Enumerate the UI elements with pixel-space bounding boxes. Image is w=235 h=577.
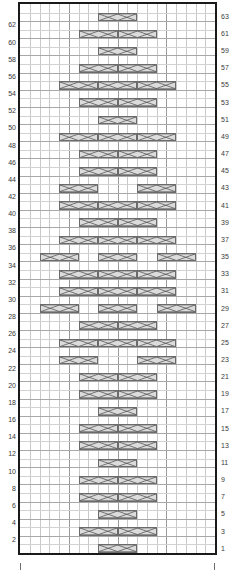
row-label-left-20: 20 bbox=[8, 382, 16, 389]
cable-cross-symbol bbox=[118, 373, 157, 382]
row-label-left-10: 10 bbox=[8, 468, 16, 475]
row-label-left-60: 60 bbox=[8, 39, 16, 46]
cable-cross-symbol bbox=[137, 184, 176, 193]
edge-tick-right bbox=[214, 563, 215, 570]
grid-line-horizontal bbox=[20, 279, 215, 280]
grid-line-horizontal bbox=[20, 450, 215, 451]
row-label-right-11: 11 bbox=[221, 459, 228, 466]
row-label-right-43: 43 bbox=[221, 184, 229, 191]
row-label-right-9: 9 bbox=[221, 476, 225, 483]
grid-line-horizontal bbox=[20, 124, 215, 125]
row-label-right-63: 63 bbox=[221, 13, 229, 20]
row-label-left-8: 8 bbox=[12, 485, 16, 492]
grid-line-horizontal bbox=[20, 519, 215, 520]
row-label-right-49: 49 bbox=[221, 133, 229, 140]
grid-line-horizontal bbox=[20, 210, 215, 211]
cable-cross-symbol bbox=[79, 441, 118, 450]
cable-cross-symbol bbox=[118, 30, 157, 39]
chart-grid-frame bbox=[18, 2, 217, 555]
grid-line-horizontal bbox=[20, 184, 215, 185]
row-label-left-46: 46 bbox=[8, 159, 16, 166]
grid-line-horizontal bbox=[20, 73, 215, 74]
row-label-right-51: 51 bbox=[221, 116, 229, 123]
row-label-right-21: 21 bbox=[221, 373, 229, 380]
row-label-right-3: 3 bbox=[221, 528, 225, 535]
cable-cross-symbol bbox=[137, 236, 176, 245]
row-label-right-59: 59 bbox=[221, 47, 229, 54]
row-label-right-31: 31 bbox=[221, 287, 229, 294]
cable-cross-symbol bbox=[118, 390, 157, 399]
cable-cross-symbol bbox=[79, 390, 118, 399]
cable-cross-symbol bbox=[137, 270, 176, 279]
row-label-right-53: 53 bbox=[221, 99, 229, 106]
cable-cross-symbol bbox=[98, 236, 137, 245]
cable-cross-symbol bbox=[40, 253, 79, 262]
grid-line-horizontal bbox=[20, 347, 215, 348]
row-label-left-62: 62 bbox=[8, 21, 16, 28]
row-label-left-40: 40 bbox=[8, 210, 16, 217]
cable-cross-symbol bbox=[98, 544, 137, 553]
cable-cross-symbol bbox=[59, 133, 98, 142]
row-label-right-25: 25 bbox=[221, 339, 229, 346]
grid-line-horizontal bbox=[20, 364, 215, 365]
row-label-right-23: 23 bbox=[221, 356, 229, 363]
grid-line-horizontal bbox=[20, 107, 215, 108]
cable-cross-symbol bbox=[118, 167, 157, 176]
grid-line-horizontal bbox=[20, 502, 215, 503]
cable-cross-symbol bbox=[59, 356, 98, 365]
row-label-left-48: 48 bbox=[8, 142, 16, 149]
row-label-right-41: 41 bbox=[221, 202, 229, 209]
cable-cross-symbol bbox=[79, 321, 118, 330]
cable-cross-symbol bbox=[157, 253, 196, 262]
cable-cross-symbol bbox=[118, 424, 157, 433]
grid-line-horizontal bbox=[20, 193, 215, 194]
row-label-right-33: 33 bbox=[221, 270, 229, 277]
row-label-left-6: 6 bbox=[12, 502, 16, 509]
row-label-right-57: 57 bbox=[221, 64, 229, 71]
grid-line-horizontal bbox=[20, 416, 215, 417]
row-label-right-61: 61 bbox=[221, 30, 229, 37]
cable-cross-symbol bbox=[79, 150, 118, 159]
grid-line-horizontal bbox=[20, 433, 215, 434]
row-label-left-36: 36 bbox=[8, 244, 16, 251]
cable-cross-symbol bbox=[118, 476, 157, 485]
cable-cross-symbol bbox=[79, 424, 118, 433]
row-label-left-58: 58 bbox=[8, 56, 16, 63]
cable-cross-symbol bbox=[118, 441, 157, 450]
row-label-left-26: 26 bbox=[8, 330, 16, 337]
cable-cross-symbol bbox=[79, 527, 118, 536]
row-label-left-56: 56 bbox=[8, 73, 16, 80]
cable-cross-symbol bbox=[79, 30, 118, 39]
row-label-left-30: 30 bbox=[8, 296, 16, 303]
grid-line-horizontal bbox=[20, 536, 215, 537]
cable-cross-symbol bbox=[137, 356, 176, 365]
row-label-left-16: 16 bbox=[8, 416, 16, 423]
cable-cross-symbol bbox=[118, 150, 157, 159]
cable-cross-symbol bbox=[40, 304, 79, 313]
cable-cross-symbol bbox=[118, 98, 157, 107]
cable-cross-symbol bbox=[118, 527, 157, 536]
cable-cross-symbol bbox=[59, 81, 98, 90]
cable-cross-symbol bbox=[59, 184, 98, 193]
row-label-left-42: 42 bbox=[8, 193, 16, 200]
row-label-right-37: 37 bbox=[221, 236, 229, 243]
cable-cross-symbol bbox=[137, 287, 176, 296]
cable-cross-symbol bbox=[79, 64, 118, 73]
cable-cross-symbol bbox=[79, 218, 118, 227]
cable-cross-symbol bbox=[98, 459, 137, 468]
row-label-right-47: 47 bbox=[221, 150, 229, 157]
cable-cross-symbol bbox=[98, 339, 137, 348]
grid-line-horizontal bbox=[20, 227, 215, 228]
cable-cross-symbol bbox=[118, 321, 157, 330]
row-label-right-35: 35 bbox=[221, 253, 229, 260]
cable-cross-symbol bbox=[59, 287, 98, 296]
row-label-right-7: 7 bbox=[221, 493, 225, 500]
cable-cross-symbol bbox=[137, 201, 176, 210]
cable-cross-symbol bbox=[79, 167, 118, 176]
cable-cross-symbol bbox=[118, 493, 157, 502]
cable-cross-symbol bbox=[98, 81, 137, 90]
cable-cross-symbol bbox=[59, 339, 98, 348]
cable-cross-symbol bbox=[59, 270, 98, 279]
cable-cross-symbol bbox=[98, 13, 137, 22]
cable-cross-symbol bbox=[98, 407, 137, 416]
